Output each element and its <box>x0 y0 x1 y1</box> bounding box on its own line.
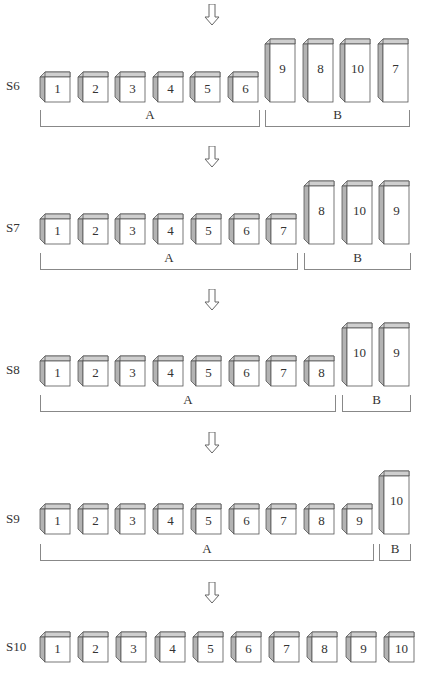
group-label: A <box>41 392 335 408</box>
tall-box: 8 <box>304 181 334 244</box>
cube-box: 7 <box>266 504 296 534</box>
box-number: 10 <box>345 61 370 77</box>
box-number: 8 <box>309 203 334 219</box>
tall-box: 10 <box>340 39 370 102</box>
cube-box: 3 <box>115 214 145 244</box>
cube-box: 6 <box>231 632 261 662</box>
box-number: 5 <box>195 81 220 97</box>
cube-box: 2 <box>78 504 108 534</box>
box-number: 6 <box>234 513 259 529</box>
group-bracket-b: B <box>304 253 411 270</box>
group-label: B <box>305 250 410 266</box>
box-number: 9 <box>384 345 409 361</box>
cube-box: 1 <box>40 356 70 386</box>
box-number: 6 <box>234 365 259 381</box>
box-number: 1 <box>45 365 70 381</box>
cube-box: 7 <box>266 214 296 244</box>
cube-box: 7 <box>266 356 296 386</box>
step-label: S8 <box>6 362 20 378</box>
box-number: 4 <box>158 513 183 529</box>
group-label: B <box>380 541 410 557</box>
group-label: B <box>266 107 409 123</box>
cube-box: 5 <box>191 214 221 244</box>
box-number: 4 <box>160 641 185 657</box>
cube-box: 3 <box>116 632 146 662</box>
cube-box: 8 <box>307 632 337 662</box>
box-number: 3 <box>120 223 145 239</box>
cube-box: 8 <box>304 504 334 534</box>
group-bracket-b: B <box>265 110 410 127</box>
box-number: 1 <box>45 223 70 239</box>
box-number: 9 <box>347 513 372 529</box>
cube-box: 2 <box>78 632 108 662</box>
box-number: 1 <box>45 641 70 657</box>
box-number: 9 <box>384 203 409 219</box>
box-number: 8 <box>312 641 337 657</box>
group-bracket-a: A <box>40 110 260 127</box>
box-number: 6 <box>234 223 259 239</box>
cube-box: 10 <box>384 632 414 662</box>
cube-box: 1 <box>40 214 70 244</box>
cube-box: 4 <box>153 504 183 534</box>
box-number: 5 <box>198 641 223 657</box>
tall-box: 9 <box>379 323 409 386</box>
box-number: 6 <box>236 641 261 657</box>
cube-box: 2 <box>78 72 108 102</box>
tall-box: 10 <box>342 181 372 244</box>
box-number: 2 <box>83 513 108 529</box>
cube-box: 5 <box>191 504 221 534</box>
box-number: 3 <box>120 81 145 97</box>
box-number: 4 <box>158 81 183 97</box>
group-bracket-a: A <box>40 253 298 270</box>
cube-box: 5 <box>190 72 220 102</box>
box-number: 2 <box>83 223 108 239</box>
box-number: 4 <box>158 223 183 239</box>
cube-box: 6 <box>229 356 259 386</box>
box-number: 9 <box>270 61 295 77</box>
group-label: B <box>343 392 410 408</box>
box-number: 7 <box>274 641 299 657</box>
box-number: 5 <box>196 365 221 381</box>
group-bracket-a: A <box>40 395 336 412</box>
group-label: A <box>41 541 373 557</box>
down-arrow-icon <box>204 289 220 311</box>
down-arrow-icon <box>204 432 220 454</box>
cube-box: 3 <box>115 72 145 102</box>
cube-box: 9 <box>346 632 376 662</box>
box-number: 7 <box>271 365 296 381</box>
group-label: A <box>41 107 259 123</box>
cube-box: 7 <box>269 632 299 662</box>
cube-box: 1 <box>40 72 70 102</box>
box-number: 10 <box>389 641 414 657</box>
cube-box: 6 <box>228 72 258 102</box>
down-arrow-icon <box>204 146 220 168</box>
box-number: 7 <box>383 61 408 77</box>
cube-box: 8 <box>304 356 334 386</box>
box-number: 5 <box>196 223 221 239</box>
cube-box: 4 <box>153 214 183 244</box>
tall-box: 10 <box>342 323 372 386</box>
step-label: S7 <box>6 220 20 236</box>
box-number: 7 <box>271 223 296 239</box>
box-number: 4 <box>158 365 183 381</box>
box-number: 2 <box>83 641 108 657</box>
box-number: 2 <box>83 365 108 381</box>
cube-box: 5 <box>191 356 221 386</box>
cube-box: 3 <box>115 356 145 386</box>
box-number: 2 <box>83 81 108 97</box>
step-label: S9 <box>6 511 20 527</box>
cube-box: 2 <box>78 356 108 386</box>
cube-box: 4 <box>153 72 183 102</box>
cube-box: 2 <box>78 214 108 244</box>
down-arrow-icon <box>204 582 220 604</box>
tall-box: 8 <box>303 39 333 102</box>
tall-box: 7 <box>378 39 408 102</box>
box-number: 10 <box>347 203 372 219</box>
cube-box: 5 <box>193 632 223 662</box>
group-bracket-b: B <box>342 395 411 412</box>
box-number: 6 <box>233 81 258 97</box>
step-label: S6 <box>6 78 20 94</box>
box-number: 10 <box>384 493 409 509</box>
box-number: 5 <box>196 513 221 529</box>
tall-box: 9 <box>265 39 295 102</box>
